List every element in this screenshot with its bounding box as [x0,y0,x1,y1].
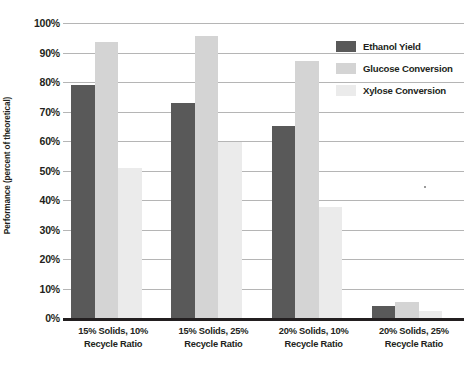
axis-baseline [63,318,464,321]
bar [419,311,443,318]
y-tick-label: 60% [16,135,60,147]
bar [171,103,195,318]
bar-chart: Performance (percent of theoretical) 100… [0,0,468,378]
legend-item: Xylose Conversion [336,83,453,98]
y-tick-label: 0% [16,312,60,324]
x-axis-category-label-line: Recycle Ratio [163,338,263,351]
y-tick-label: 90% [16,47,60,59]
y-tick-label: 40% [16,194,60,206]
x-axis-category-label-line: 20% Solids, 10% [264,325,364,338]
y-tick-label: 30% [16,224,60,236]
x-axis-category-labels: 15% Solids, 10%Recycle Ratio15% Solids, … [63,325,464,365]
bar [295,61,319,318]
y-tick-mark [55,53,60,54]
x-axis-category-label: 15% Solids, 25%Recycle Ratio [163,325,263,350]
legend-label: Glucose Conversion [363,63,453,74]
y-tick-label: 20% [16,253,60,265]
y-tick-mark [55,23,60,24]
y-tick-mark [55,230,60,231]
bar [71,85,95,318]
y-tick-mark [55,200,60,201]
legend-item: Ethanol Yield [336,39,453,54]
y-axis-ticks: 100%90%80%70%60%50%40%30%20%10%0% [8,23,60,318]
legend: Ethanol YieldGlucose ConversionXylose Co… [336,39,453,105]
legend-color-swatch [336,63,356,74]
y-tick-mark [55,112,60,113]
y-tick-label: 100% [16,17,60,29]
bar [319,207,343,318]
y-tick-label: 50% [16,165,60,177]
legend-item: Glucose Conversion [336,61,453,76]
y-tick-mark [55,141,60,142]
bar [218,142,242,318]
bar [395,302,419,318]
y-tick-label: 80% [16,76,60,88]
x-axis-category-label: 20% Solids, 10%Recycle Ratio [264,325,364,350]
y-tick-mark [55,171,60,172]
bar [272,126,296,318]
x-axis-category-label-line: Recycle Ratio [63,338,163,351]
y-tick-label: 10% [16,283,60,295]
bar [372,306,396,318]
y-tick-label: 70% [16,106,60,118]
x-axis-category-label: 15% Solids, 10%Recycle Ratio [63,325,163,350]
y-tick-mark [55,289,60,290]
x-axis-category-label-line: 20% Solids, 25% [364,325,464,338]
legend-label: Xylose Conversion [363,85,446,96]
x-axis-category-label-line: 15% Solids, 10% [63,325,163,338]
legend-color-swatch [336,41,356,52]
x-axis-category-label: 20% Solids, 25%Recycle Ratio [364,325,464,350]
x-axis-category-label-line: Recycle Ratio [364,338,464,351]
bar [195,36,219,318]
scan-artifact-speck [424,186,426,188]
y-tick-mark [55,318,60,319]
y-tick-mark [55,82,60,83]
legend-label: Ethanol Yield [363,41,421,52]
y-tick-mark [55,259,60,260]
bar [95,42,119,318]
x-axis-category-label-line: 15% Solids, 25% [163,325,263,338]
legend-color-swatch [336,85,356,96]
bar [118,168,142,318]
x-axis-category-label-line: Recycle Ratio [264,338,364,351]
